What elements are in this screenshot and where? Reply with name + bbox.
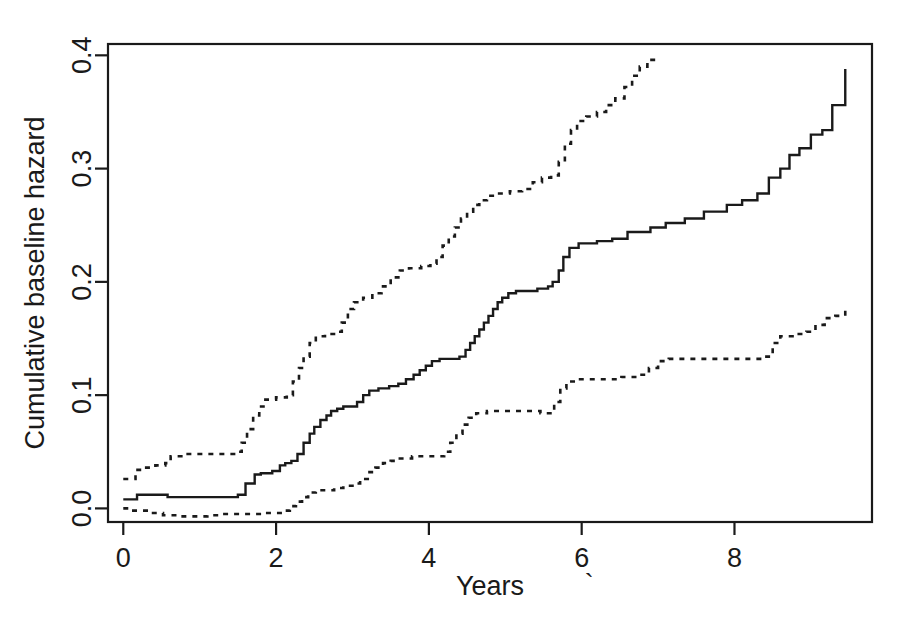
x-tick-label: 8 bbox=[727, 543, 742, 573]
data-series-layer bbox=[123, 58, 845, 517]
y-tick-label: 0.1 bbox=[67, 376, 97, 414]
x-tick-label: 2 bbox=[269, 543, 284, 573]
series-line bbox=[123, 69, 845, 499]
series-line bbox=[123, 307, 845, 517]
y-tick-label: 0.2 bbox=[67, 263, 97, 301]
x-axis-tick-labels: 02468 bbox=[116, 543, 742, 573]
x-tick-label: 0 bbox=[116, 543, 131, 573]
y-tick-label: 0.3 bbox=[67, 150, 97, 188]
plot-frame bbox=[108, 44, 872, 522]
x-axis-ticks bbox=[123, 522, 734, 535]
y-tick-label: 0.4 bbox=[67, 37, 97, 75]
cumulative-hazard-chart: 0.00.10.20.30.4 02468 Years Cumulative b… bbox=[0, 0, 903, 623]
stray-mark-layer: ` bbox=[585, 569, 594, 599]
figure-container: 0.00.10.20.30.4 02468 Years Cumulative b… bbox=[0, 0, 903, 623]
y-tick-label: 0.0 bbox=[67, 490, 97, 528]
series-line bbox=[123, 58, 656, 479]
y-axis-tick-labels: 0.00.10.20.30.4 bbox=[67, 37, 97, 528]
y-axis-title: Cumulative baseline hazard bbox=[20, 116, 50, 449]
x-axis-title: Years bbox=[456, 571, 524, 601]
stray-mark: ` bbox=[585, 569, 594, 599]
x-tick-label: 4 bbox=[421, 543, 436, 573]
